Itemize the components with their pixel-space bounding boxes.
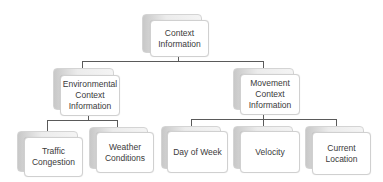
node-label: Environmental Context Information — [60, 75, 120, 116]
node-label: Movement Context Information — [240, 74, 300, 115]
connector-level1-horizontal — [82, 61, 264, 62]
connector-to-velocity — [263, 119, 264, 126]
connector-to-day-of-week — [191, 119, 192, 126]
node-label: Traffic Congestion — [24, 137, 83, 177]
connector-movement-children-horizontal — [191, 119, 337, 120]
connector-environmental-children-horizontal — [47, 120, 118, 121]
connector-to-traffic — [47, 120, 48, 131]
node-label: Context Information — [150, 20, 209, 57]
node-label: Velocity — [240, 131, 300, 173]
node-label: Day of Week — [167, 131, 228, 173]
node-label: Current Location — [312, 132, 371, 175]
node-label: Weather Conditions — [96, 132, 154, 173]
connector-to-current-location — [336, 119, 337, 126]
